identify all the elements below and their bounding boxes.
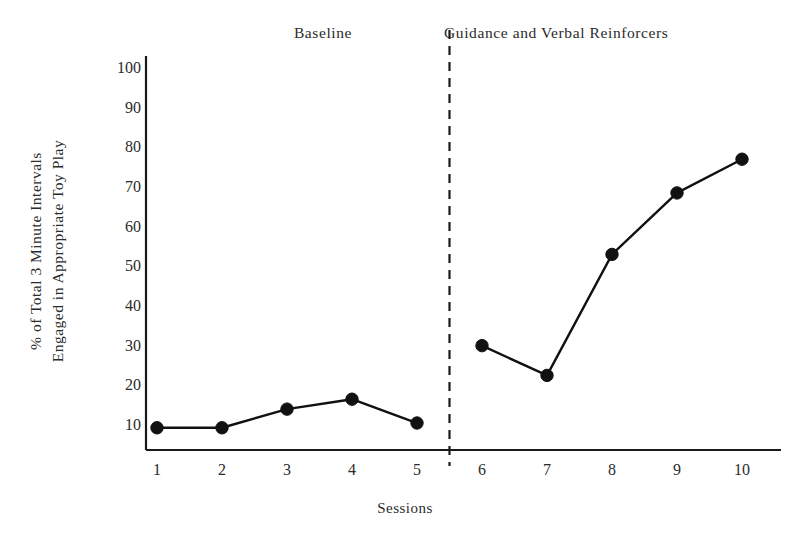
y-tick-label-100: 100 bbox=[99, 60, 141, 76]
x-tick-label-10: 10 bbox=[734, 462, 750, 478]
data-point-session-6 bbox=[476, 339, 488, 351]
y-tick-label-70: 70 bbox=[99, 179, 141, 195]
x-tick-label-8: 8 bbox=[608, 462, 616, 478]
chart-figure: Baseline Guidance and Verbal Reinforcers… bbox=[0, 0, 810, 547]
data-point-session-8 bbox=[606, 248, 618, 260]
x-tick-label-2: 2 bbox=[218, 462, 226, 478]
y-tick-label-20: 20 bbox=[99, 377, 141, 393]
y-tick-label-30: 30 bbox=[99, 338, 141, 354]
x-tick-label-6: 6 bbox=[478, 462, 486, 478]
y-tick-label-40: 40 bbox=[99, 298, 141, 314]
data-point-session-9 bbox=[671, 187, 683, 199]
x-tick-label-9: 9 bbox=[673, 462, 681, 478]
series-treatment bbox=[476, 153, 748, 382]
x-tick-label-5: 5 bbox=[413, 462, 421, 478]
phase-label-baseline: Baseline bbox=[228, 24, 418, 42]
axis-lines bbox=[146, 56, 781, 450]
x-tick-label-4: 4 bbox=[348, 462, 356, 478]
data-point-session-1 bbox=[151, 422, 163, 434]
series-baseline bbox=[151, 393, 423, 434]
y-tick-label-10: 10 bbox=[99, 417, 141, 433]
data-point-session-3 bbox=[281, 403, 293, 415]
data-point-session-4 bbox=[346, 393, 358, 405]
x-axis-title: Sessions bbox=[0, 500, 810, 517]
data-point-session-10 bbox=[736, 153, 748, 165]
y-axis-tick-labels: 102030405060708090100 bbox=[95, 0, 141, 547]
y-tick-label-80: 80 bbox=[99, 139, 141, 155]
y-tick-label-50: 50 bbox=[99, 258, 141, 274]
x-tick-label-3: 3 bbox=[283, 462, 291, 478]
y-tick-label-60: 60 bbox=[99, 219, 141, 235]
x-tick-label-1: 1 bbox=[153, 462, 161, 478]
x-tick-label-7: 7 bbox=[543, 462, 551, 478]
y-tick-label-90: 90 bbox=[99, 100, 141, 116]
data-point-session-7 bbox=[541, 369, 553, 381]
series-line bbox=[482, 159, 742, 375]
data-point-session-2 bbox=[216, 422, 228, 434]
data-point-session-5 bbox=[411, 417, 423, 429]
phase-label-treatment: Guidance and Verbal Reinforcers bbox=[444, 24, 668, 42]
